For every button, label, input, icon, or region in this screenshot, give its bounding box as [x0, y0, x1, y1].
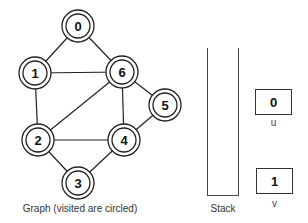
- node-label: 5: [161, 98, 168, 113]
- node-label: 1: [31, 66, 38, 81]
- node-label: 2: [34, 133, 41, 148]
- node-label: 0: [74, 19, 81, 34]
- graph-node-4: 4: [108, 124, 140, 156]
- graph-node-5: 5: [149, 89, 181, 121]
- variable-u-label: u: [255, 117, 292, 128]
- variable-u-box: 0: [255, 89, 292, 115]
- stack-label: Stack: [204, 203, 242, 214]
- graph-caption: Graph (visited are circled): [20, 203, 140, 214]
- node-label: 3: [74, 176, 81, 191]
- variable-v-label: v: [256, 198, 293, 209]
- variable-v-box: 1: [256, 168, 293, 194]
- graph-node-6: 6: [106, 56, 138, 88]
- graph-edges: [35, 26, 165, 183]
- stack-container: [207, 48, 239, 196]
- graph-node-2: 2: [22, 124, 54, 156]
- graph-node-0: 0: [62, 10, 94, 42]
- node-label: 4: [120, 133, 128, 148]
- graph-node-3: 3: [62, 167, 94, 199]
- graph-node-1: 1: [19, 57, 51, 89]
- node-label: 6: [118, 65, 125, 80]
- graph-nodes: 0165243: [19, 10, 181, 199]
